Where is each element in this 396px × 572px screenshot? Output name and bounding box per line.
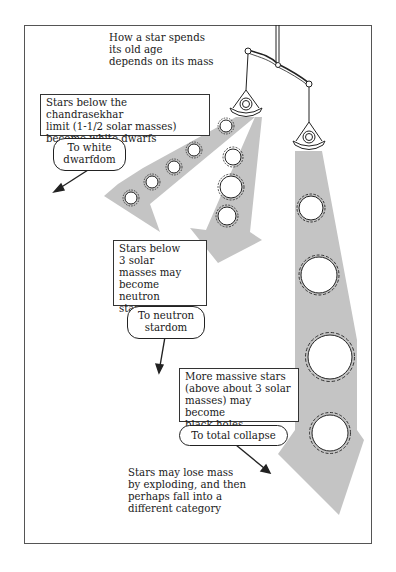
black-hole-description: More massive stars (above about 3 solar …: [179, 368, 299, 422]
white-dwarf-description: Stars below the chandrasekhar limit (1-1…: [40, 94, 210, 136]
white-dwarf-destination: To white dwarfdom: [53, 138, 126, 171]
neutron-star-description: Stars below 3 solar masses may become ne…: [113, 240, 207, 306]
diagram-title: How a star spends its old age depends on…: [109, 32, 214, 68]
balance-scale-icon: [230, 25, 325, 150]
mass-loss-note: Stars may lose mass by exploding, and th…: [128, 467, 246, 515]
neutron-star-destination: To neutron stardom: [127, 306, 205, 339]
white-dwarf-pointer-arrow: [54, 170, 88, 192]
black-hole-destination: To total collapse: [179, 425, 288, 446]
